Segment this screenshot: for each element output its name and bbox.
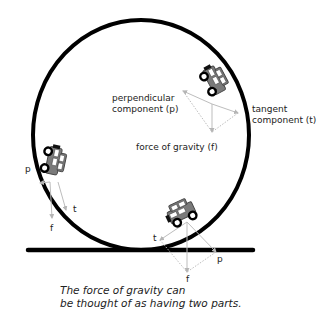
loop-diagram [0,0,331,320]
car-bottom [162,196,199,230]
tangent-label-line2: component (t) [252,115,316,126]
caption: The force of gravity can be thought of a… [60,284,241,310]
perpendicular-label: perpendicular component (p) [112,93,179,115]
left-p-label: p [25,164,31,175]
caption-line1: The force of gravity can [60,284,241,297]
caption-line2: be thought of as having two parts. [60,297,241,310]
perpendicular-label-line1: perpendicular [112,93,179,104]
left-t-label: t [73,204,77,215]
bottom-p-label: p [217,254,223,265]
left-f-label: f [50,223,53,234]
gravity-label: force of gravity (f) [136,142,218,153]
bottom-t-label: t [153,233,157,244]
tangent-label-line1: tangent [252,104,316,115]
upper-right-vectors [183,91,238,132]
car-left [39,142,69,176]
loop-track [33,20,249,250]
perpendicular-label-line2: component (p) [112,104,179,115]
tangent-label: tangent component (t) [252,104,316,126]
